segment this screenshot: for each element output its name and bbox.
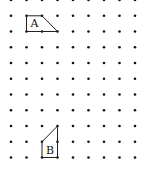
grid-dot: [87, 125, 90, 128]
dot-grid-diagram: A B: [0, 0, 146, 171]
grid-dots: [10, 0, 137, 159]
grid-dot: [118, 0, 121, 1]
grid-dot: [72, 0, 75, 1]
grid-dot: [41, 125, 44, 128]
grid-dot: [72, 125, 75, 128]
grid-dot: [103, 46, 106, 49]
grid-dot: [87, 62, 90, 65]
grid-dot: [134, 15, 137, 18]
grid-dot: [134, 0, 137, 1]
grid-dot: [56, 15, 59, 18]
grid-dot: [134, 30, 137, 33]
shape-a-label: A: [30, 17, 40, 30]
grid-dot: [10, 156, 13, 159]
grid-dot: [103, 125, 106, 128]
grid-dot: [10, 109, 13, 112]
grid-dot: [87, 141, 90, 144]
grid-dot: [118, 30, 121, 33]
grid-dot: [118, 15, 121, 18]
shapes-layer: A B: [27, 16, 58, 158]
grid-dot: [103, 78, 106, 81]
grid-dot: [56, 93, 59, 96]
grid-dot: [118, 46, 121, 49]
grid-dot: [72, 78, 75, 81]
grid-dot: [103, 93, 106, 96]
grid-dot: [72, 156, 75, 159]
grid-dot: [56, 0, 59, 1]
grid-dot: [87, 78, 90, 81]
grid-dot: [10, 15, 13, 18]
grid-dot: [87, 46, 90, 49]
grid-dot: [87, 30, 90, 33]
grid-dot: [41, 46, 44, 49]
grid-dot: [25, 78, 28, 81]
grid-dot: [103, 141, 106, 144]
grid-dot: [10, 93, 13, 96]
grid-dot: [72, 93, 75, 96]
grid-dot: [134, 46, 137, 49]
grid-dot: [56, 62, 59, 65]
grid-dot: [25, 93, 28, 96]
grid-dot: [87, 156, 90, 159]
grid-dot: [87, 109, 90, 112]
grid-dot: [56, 78, 59, 81]
grid-dot: [41, 62, 44, 65]
grid-dot: [118, 141, 121, 144]
grid-dot: [134, 78, 137, 81]
grid-dot: [72, 62, 75, 65]
grid-dot: [103, 156, 106, 159]
grid-dot: [10, 30, 13, 33]
grid-dot: [103, 30, 106, 33]
grid-dot: [118, 109, 121, 112]
grid-dot: [10, 62, 13, 65]
grid-dot: [134, 93, 137, 96]
grid-dot: [118, 93, 121, 96]
grid-dot: [10, 0, 13, 1]
grid-dot: [103, 62, 106, 65]
grid-dot: [10, 78, 13, 81]
grid-dot: [41, 0, 44, 1]
grid-dot: [56, 109, 59, 112]
grid-dot: [118, 156, 121, 159]
grid-dot: [87, 93, 90, 96]
grid-dot: [87, 0, 90, 1]
grid-dot: [25, 109, 28, 112]
shape-b-label: B: [46, 144, 54, 157]
grid-dot: [41, 78, 44, 81]
grid-dot: [10, 141, 13, 144]
grid-dot: [41, 109, 44, 112]
grid-dot: [134, 125, 137, 128]
grid-dot: [87, 15, 90, 18]
grid-dot: [25, 141, 28, 144]
grid-dot: [10, 46, 13, 49]
grid-dot: [72, 15, 75, 18]
grid-dot: [103, 15, 106, 18]
grid-dot: [118, 78, 121, 81]
grid-dot: [134, 156, 137, 159]
grid-dot: [72, 30, 75, 33]
grid-dot: [134, 62, 137, 65]
grid-dot: [25, 46, 28, 49]
grid-dot: [118, 125, 121, 128]
grid-dot: [41, 93, 44, 96]
grid-dot: [72, 46, 75, 49]
grid-dot: [118, 62, 121, 65]
grid-dot: [134, 141, 137, 144]
grid-dot: [25, 0, 28, 1]
grid-dot: [25, 125, 28, 128]
grid-dot: [103, 0, 106, 1]
grid-dot: [134, 109, 137, 112]
grid-dot: [10, 125, 13, 128]
grid-dot: [103, 109, 106, 112]
grid-dot: [72, 109, 75, 112]
grid-dot: [25, 62, 28, 65]
grid-dot: [25, 156, 28, 159]
grid-dot: [56, 46, 59, 49]
grid-dot: [72, 141, 75, 144]
